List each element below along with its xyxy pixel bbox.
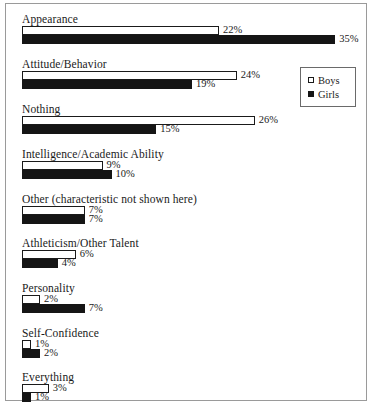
chart-legend: Boys Girls <box>300 67 356 107</box>
bar-row: 1% <box>22 393 74 402</box>
bar-value-label: 26% <box>259 114 278 126</box>
category-group: Self-Confidence1%2% <box>22 327 99 358</box>
bar-row: 2% <box>22 295 75 304</box>
bar-value-label: 10% <box>116 168 135 180</box>
category-label: Intelligence/Academic Ability <box>22 148 164 161</box>
bar-girls <box>22 125 156 134</box>
legend-label-boys: Boys <box>318 75 340 86</box>
bar-row: 9% <box>22 161 164 170</box>
bar-value-label: 35% <box>339 33 358 45</box>
chart-frame: Appearance22%35%Attitude/Behavior24%19%N… <box>5 3 367 401</box>
category-group: Attitude/Behavior24%19% <box>22 58 107 89</box>
category-group: Appearance22%35% <box>22 13 78 44</box>
bar-girls <box>22 170 112 179</box>
category-label: Self-Confidence <box>22 327 99 340</box>
bar-row: 7% <box>22 206 197 215</box>
bar-value-label: 7% <box>89 302 103 314</box>
plot-area: Appearance22%35%Attitude/Behavior24%19%N… <box>6 4 366 400</box>
legend-item-boys: Boys <box>308 73 355 87</box>
legend-swatch-boys-icon <box>308 77 314 83</box>
bar-boys <box>22 206 85 215</box>
category-group: Other (characteristic not shown here)7%7… <box>22 193 197 224</box>
bar-row: 35% <box>22 35 78 44</box>
bar-girls <box>22 349 40 358</box>
bar-girls <box>22 304 85 313</box>
bar-girls <box>22 259 58 268</box>
bar-girls <box>22 35 335 44</box>
bar-row: 4% <box>22 259 139 268</box>
bar-row: 22% <box>22 26 78 35</box>
category-group: Personality2%7% <box>22 282 75 313</box>
bar-boys <box>22 340 31 349</box>
category-group: Everything3%1% <box>22 371 74 402</box>
bar-boys <box>22 161 103 170</box>
category-label: Appearance <box>22 13 78 26</box>
legend-item-girls: Girls <box>308 87 355 101</box>
bar-row: 6% <box>22 250 139 259</box>
bar-row: 26% <box>22 116 60 125</box>
bar-row: 7% <box>22 215 197 224</box>
bar-value-label: 24% <box>241 69 260 81</box>
bar-value-label: 15% <box>160 123 179 135</box>
bar-value-label: 4% <box>62 257 76 269</box>
bar-row: 10% <box>22 170 164 179</box>
bar-boys <box>22 26 219 35</box>
bar-row: 19% <box>22 80 107 89</box>
category-label: Attitude/Behavior <box>22 58 107 71</box>
bar-boys <box>22 295 40 304</box>
category-label: Other (characteristic not shown here) <box>22 193 197 206</box>
category-group: Athleticism/Other Talent6%4% <box>22 237 139 268</box>
category-group: Nothing26%15% <box>22 103 60 134</box>
bar-girls <box>22 80 192 89</box>
legend-label-girls: Girls <box>318 89 339 100</box>
bar-row: 15% <box>22 125 60 134</box>
bar-value-label: 2% <box>44 347 58 359</box>
category-label: Nothing <box>22 103 60 116</box>
legend-swatch-girls-icon <box>308 91 314 97</box>
bar-value-label: 19% <box>196 78 215 90</box>
bar-row: 24% <box>22 71 107 80</box>
bar-girls <box>22 215 85 224</box>
bar-value-label: 1% <box>35 391 49 403</box>
category-group: Intelligence/Academic Ability9%10% <box>22 148 164 179</box>
bar-girls <box>22 393 31 402</box>
bar-value-label: 7% <box>89 213 103 225</box>
bar-row: 1% <box>22 340 99 349</box>
bar-row: 7% <box>22 304 75 313</box>
bar-boys <box>22 116 255 125</box>
bar-row: 2% <box>22 349 99 358</box>
